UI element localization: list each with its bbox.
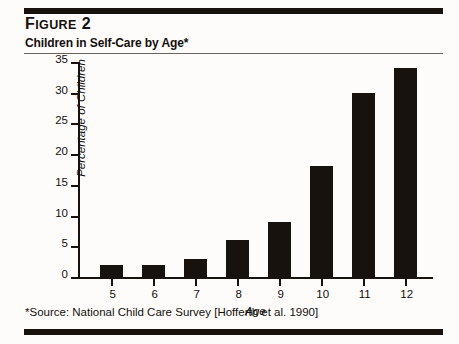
x-tick-label: 7 <box>182 288 212 300</box>
x-tick <box>111 279 113 286</box>
plot-area: 05101520253035 56789101112 Percentage of… <box>78 62 433 279</box>
x-tick <box>195 279 197 286</box>
figure-label-prefix: F <box>25 15 35 32</box>
x-tick-label: 5 <box>98 288 128 300</box>
y-tick-label: 25 <box>46 114 68 126</box>
y-tick-label: 5 <box>46 237 68 249</box>
y-tick-label: 35 <box>46 53 68 65</box>
x-tick <box>153 279 155 286</box>
x-tick-label: 11 <box>350 288 380 300</box>
figure-container: FIGURE 2 Children in Self-Care by Age* 0… <box>0 0 459 344</box>
figure-title: Children in Self-Care by Age* <box>25 36 188 50</box>
bar <box>310 166 333 277</box>
x-tick <box>405 279 407 286</box>
x-axis <box>78 277 433 279</box>
y-axis-label: Percentage of Children <box>75 53 87 183</box>
bar <box>352 93 375 277</box>
bar <box>226 240 249 277</box>
y-tick-label: 30 <box>46 84 68 96</box>
x-tick-label: 9 <box>266 288 296 300</box>
source-note: *Source: National Child Care Survey [Hof… <box>25 306 318 318</box>
y-tick-label: 15 <box>46 176 68 188</box>
figure-label-small: IGURE <box>35 18 77 32</box>
x-tick-label: 6 <box>140 288 170 300</box>
x-tick <box>363 279 365 286</box>
y-tick-label: 10 <box>46 207 68 219</box>
x-tick-label: 12 <box>392 288 422 300</box>
bar <box>142 265 165 277</box>
y-tick <box>71 185 78 187</box>
y-tick <box>71 216 78 218</box>
x-tick <box>237 279 239 286</box>
x-tick-label: 10 <box>308 288 338 300</box>
y-tick-label: 0 <box>46 268 68 280</box>
top-rule <box>24 8 443 14</box>
x-tick <box>321 279 323 286</box>
figure-label-number: 2 <box>82 15 91 32</box>
bar <box>184 259 207 277</box>
bar <box>268 222 291 277</box>
y-tick <box>71 246 78 248</box>
bottom-rule <box>24 329 443 335</box>
bar <box>100 265 123 277</box>
x-tick-label: 8 <box>224 288 254 300</box>
y-tick-label: 20 <box>46 145 68 157</box>
bar <box>394 68 417 277</box>
y-tick <box>71 277 78 279</box>
x-tick <box>279 279 281 286</box>
figure-label: FIGURE 2 <box>25 15 91 33</box>
